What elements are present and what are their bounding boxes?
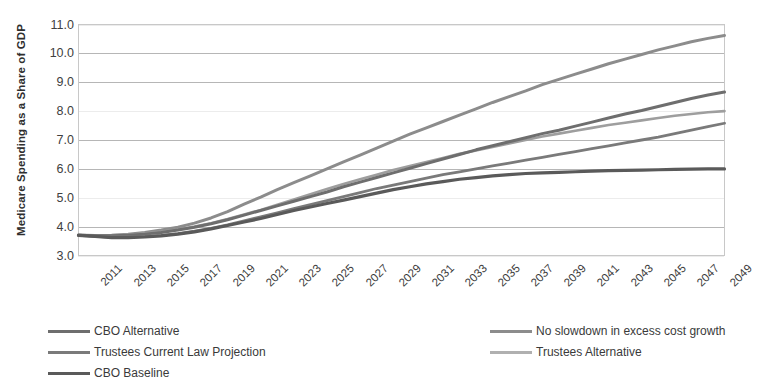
gridlines xyxy=(79,26,725,257)
legend-swatch xyxy=(48,330,90,333)
legend-label: Trustees Current Law Projection xyxy=(94,345,266,359)
chart-legend: CBO AlternativeTrustees Current Law Proj… xyxy=(48,324,758,388)
legend-swatch xyxy=(48,372,90,375)
legend-item[interactable]: Trustees Current Law Projection xyxy=(48,345,266,359)
legend-item[interactable]: No slowdown in excess cost growth xyxy=(490,324,725,338)
legend-label: CBO Baseline xyxy=(94,366,169,380)
series-line xyxy=(79,92,725,236)
series-line xyxy=(79,111,725,235)
series-line xyxy=(79,35,725,235)
legend-item[interactable]: CBO Alternative xyxy=(48,324,179,338)
legend-item[interactable]: Trustees Alternative xyxy=(490,345,642,359)
legend-label: No slowdown in excess cost growth xyxy=(536,324,725,338)
series-lines xyxy=(79,35,725,237)
legend-swatch xyxy=(490,330,532,333)
legend-swatch xyxy=(48,351,90,354)
legend-item[interactable]: CBO Baseline xyxy=(48,366,169,380)
medicare-spending-chart: Medicare Spending as a Share of GDP 11.0… xyxy=(0,0,770,392)
legend-label: Trustees Alternative xyxy=(536,345,642,359)
legend-swatch xyxy=(490,351,532,354)
legend-label: CBO Alternative xyxy=(94,324,179,338)
